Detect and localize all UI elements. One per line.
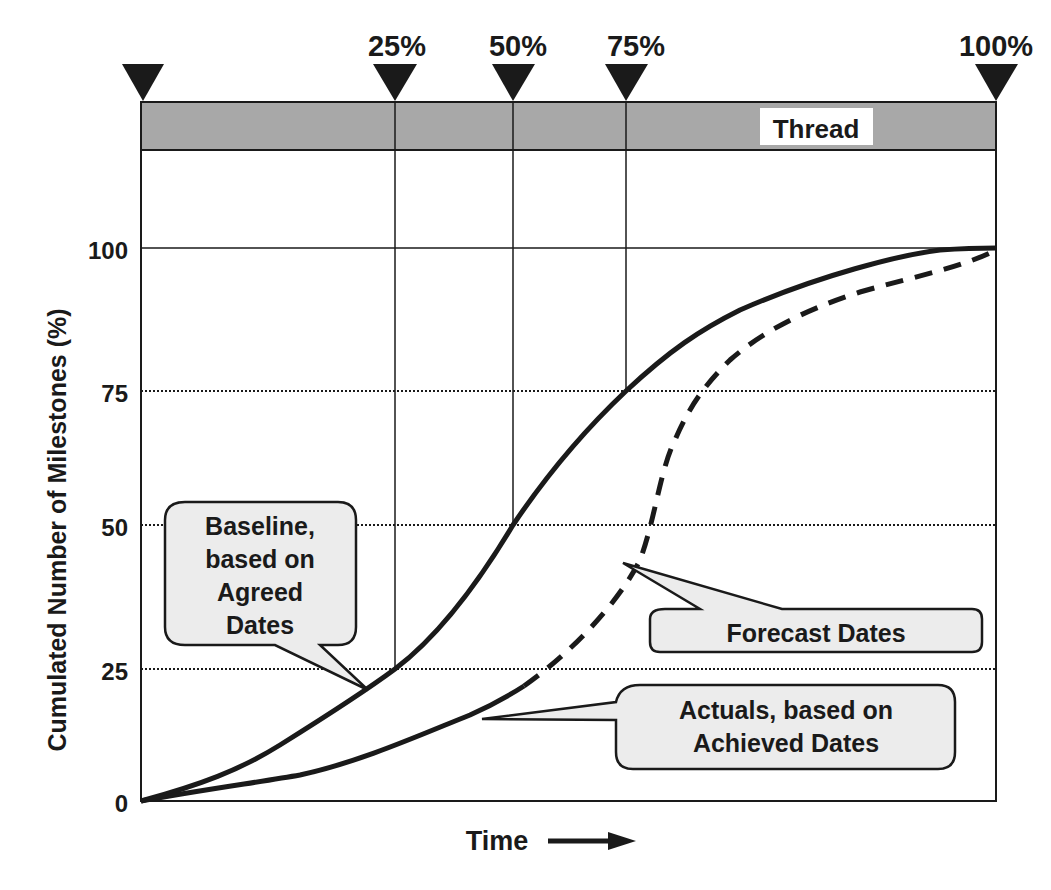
- milestone-label-75: 75%: [607, 30, 665, 62]
- thread-label: Thread: [773, 114, 860, 144]
- milestone-chart: Thread 25% 50% 75% 100% 100 75 50 25 0 C…: [0, 0, 1051, 890]
- baseline-callout-line3: Agreed: [217, 578, 303, 606]
- baseline-callout-line4: Dates: [226, 611, 294, 639]
- milestone-label-25: 25%: [368, 30, 426, 62]
- actuals-callout: Actuals, based on Achieved Dates: [482, 685, 955, 769]
- baseline-callout-line1: Baseline,: [205, 512, 315, 540]
- milestone-marker-100: [975, 64, 1018, 101]
- milestone-label-100: 100%: [959, 30, 1033, 62]
- actuals-callout-line2: Achieved Dates: [693, 729, 879, 757]
- milestone-marker-75: [605, 64, 648, 101]
- baseline-callout-line2: based on: [205, 545, 315, 573]
- y-tick-50: 50: [101, 514, 128, 541]
- milestone-marker-50: [492, 64, 535, 101]
- y-tick-25: 25: [101, 658, 128, 685]
- y-axis-label: Cumulated Number of Milestones (%): [43, 308, 71, 751]
- actuals-callout-line1: Actuals, based on: [679, 696, 893, 724]
- x-axis-label: Time: [466, 826, 529, 856]
- baseline-callout: Baseline, based on Agreed Dates: [165, 502, 368, 690]
- time-arrow-icon: [548, 832, 636, 850]
- milestone-label-50: 50%: [489, 30, 547, 62]
- milestone-marker-start: [122, 64, 164, 101]
- y-tick-0: 0: [115, 790, 128, 817]
- milestone-marker-25: [373, 64, 417, 101]
- y-tick-100: 100: [88, 237, 128, 264]
- forecast-callout: Forecast Dates: [623, 563, 982, 652]
- y-tick-75: 75: [101, 380, 128, 407]
- forecast-callout-text: Forecast Dates: [726, 619, 905, 647]
